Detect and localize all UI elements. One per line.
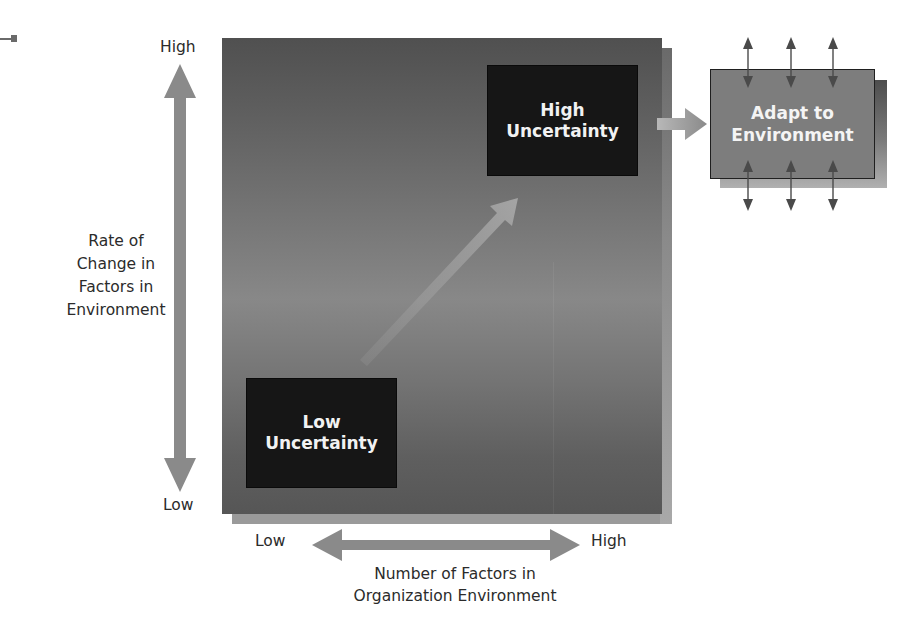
high-uncertainty-box: High Uncertainty — [487, 65, 638, 176]
low-uncertainty-line2: Uncertainty — [265, 433, 378, 454]
vertical-axis-title-line: Change in — [40, 253, 192, 276]
diagonal-arrow-icon — [340, 180, 540, 380]
horizontal-double-arrow-icon — [312, 528, 580, 562]
low-uncertainty-line1: Low — [302, 412, 340, 433]
square-divider — [553, 262, 554, 514]
high-uncertainty-line2: Uncertainty — [506, 121, 619, 142]
horizontal-axis-title-line: Number of Factors in — [330, 563, 580, 585]
vertical-axis-low-label: Low — [163, 495, 194, 515]
vertical-axis-title: Rate of Change in Factors in Environment — [40, 230, 192, 322]
horizontal-axis-title-line: Organization Environment — [330, 585, 580, 607]
high-uncertainty-line1: High — [540, 100, 584, 121]
adapt-double-arrows-icon — [730, 36, 850, 212]
corner-marker-box — [11, 35, 17, 42]
horizontal-axis-low-label: Low — [255, 531, 286, 551]
horizontal-axis-title: Number of Factors in Organization Enviro… — [330, 563, 580, 607]
vertical-axis-title-line: Environment — [40, 299, 192, 322]
right-arrow-icon — [657, 106, 709, 142]
horizontal-axis-high-label: High — [591, 531, 627, 551]
low-uncertainty-box: Low Uncertainty — [246, 378, 397, 488]
vertical-axis-title-line: Factors in — [40, 276, 192, 299]
vertical-axis-high-label: High — [160, 37, 196, 57]
vertical-axis-title-line: Rate of — [40, 230, 192, 253]
